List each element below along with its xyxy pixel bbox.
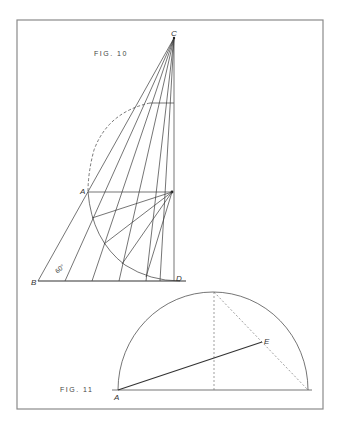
- point-a-label: A: [113, 393, 119, 402]
- fig11-label: FIG. 11: [60, 386, 93, 393]
- angle-label: 60°: [54, 262, 66, 274]
- diagram-canvas: FIG. 10 C A B D 60° FIG. 11 A E: [0, 0, 341, 428]
- fan-line: [38, 38, 174, 281]
- point-a-label: A: [79, 187, 85, 196]
- point-b-label: B: [31, 278, 37, 287]
- chord-dashed: [214, 292, 308, 390]
- fig10-label: FIG. 10: [94, 50, 128, 57]
- fig11: FIG. 11 A E: [60, 292, 312, 402]
- point-c-label: C: [171, 29, 177, 38]
- radial-line: [92, 192, 172, 218]
- line-ae: [118, 342, 262, 390]
- solid-arc: [88, 192, 180, 281]
- semicircle: [118, 292, 308, 390]
- radial-line: [146, 192, 172, 277]
- radial-line: [122, 192, 172, 264]
- dashed-arc: [88, 103, 150, 192]
- fan-line: [65, 38, 174, 281]
- point-e-label: E: [264, 337, 270, 346]
- fig10: FIG. 10 C A B D 60°: [31, 29, 186, 287]
- fan-line: [160, 38, 174, 281]
- figure-frame: [17, 20, 323, 409]
- fan-line: [146, 38, 174, 281]
- fan-line: [119, 38, 174, 281]
- point-d-label: D: [176, 274, 182, 283]
- fan-line: [92, 38, 174, 281]
- radial-line: [104, 192, 172, 244]
